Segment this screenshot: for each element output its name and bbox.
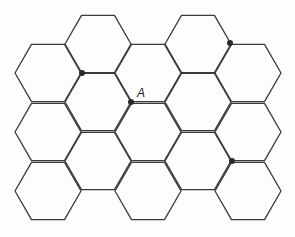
hexagon-cell bbox=[115, 44, 181, 101]
vertex-dot bbox=[79, 70, 85, 76]
point-a-dot bbox=[128, 99, 134, 105]
hexagon-cell bbox=[65, 15, 131, 72]
hexagon-cell bbox=[15, 44, 81, 101]
hexagon-grid bbox=[0, 0, 295, 237]
hexagon-cell bbox=[215, 44, 281, 101]
point-a-label: A bbox=[137, 87, 145, 99]
vertex-dot bbox=[227, 40, 233, 46]
vertex-dot bbox=[229, 158, 235, 164]
hexagon-cell bbox=[165, 15, 231, 72]
hex-grid-diagram: A bbox=[0, 0, 295, 237]
